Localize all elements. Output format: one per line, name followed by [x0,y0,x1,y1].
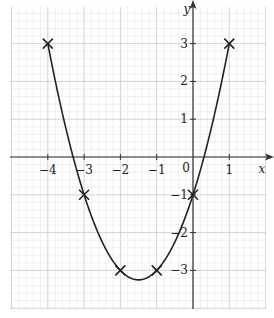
y-tick-label: −2 [170,226,188,240]
x-tick-label: −3 [75,163,93,177]
y-axis-label: y [183,2,191,16]
y-tick-label: 2 [180,74,188,88]
function-graph: −4−3−2−110−3−2−1123xy [0,0,274,318]
x-tick-label: −2 [112,163,130,177]
y-tick-label: 3 [180,37,188,51]
x-tick-label: −1 [148,163,166,177]
x-tick-label: 1 [225,163,233,177]
origin-label: 0 [182,161,190,175]
x-axis-label: x [259,162,266,176]
y-tick-label: 1 [180,112,188,126]
y-tick-label: −1 [170,188,188,202]
y-tick-label: −3 [170,263,188,277]
curve-path [48,44,230,280]
parabola-curve [48,44,230,280]
x-tick-label: −4 [39,163,57,177]
